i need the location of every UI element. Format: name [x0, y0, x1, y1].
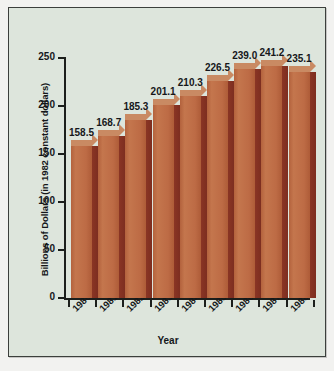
- bar-front-face: [234, 69, 255, 298]
- y-tick-50: [58, 249, 66, 251]
- y-tick-200: [58, 105, 66, 107]
- bar-1987[interactable]: [261, 60, 282, 298]
- bar-front-face: [71, 146, 92, 298]
- bar-1984[interactable]: [180, 90, 201, 298]
- bar-1982[interactable]: [125, 114, 146, 298]
- y-tick-label-200: 200: [15, 99, 55, 110]
- bar-side-face: [174, 105, 180, 298]
- bar-side-face: [282, 66, 288, 298]
- bar-side-face: [119, 136, 125, 298]
- bar-top-face: [98, 130, 119, 136]
- bar-side-face: [255, 69, 261, 298]
- bar-top-face: [180, 90, 201, 96]
- bar-front-face: [125, 120, 146, 298]
- bar-side-face: [228, 81, 234, 298]
- y-tick-label-250: 250: [15, 51, 55, 62]
- y-tick-250: [58, 57, 66, 59]
- y-tick-150: [58, 153, 66, 155]
- bar-front-face: [207, 81, 228, 298]
- y-axis-line: [64, 58, 66, 300]
- bar-side-face: [92, 146, 98, 298]
- bar-value-label-1984: 210.3: [171, 77, 210, 88]
- plot-area: Billions of Dollars (in 1982 constant do…: [9, 8, 327, 358]
- bar-front-face: [180, 96, 201, 298]
- bar-side-face: [146, 120, 152, 298]
- bar-value-label-1981: 168.7: [89, 117, 128, 128]
- x-axis-title: Year: [9, 335, 327, 346]
- bar-side-face: [310, 72, 316, 298]
- bar-top-face: [234, 63, 255, 69]
- y-axis-title: Billions of Dollars (in 1982 constant do…: [39, 55, 50, 305]
- y-tick-0: [58, 297, 66, 299]
- bar-1980[interactable]: [71, 140, 92, 298]
- bar-front-face: [98, 136, 119, 298]
- bar-front-face: [153, 105, 174, 298]
- bar-1988[interactable]: [289, 66, 310, 298]
- bar-value-label-1982: 185.3: [116, 101, 155, 112]
- bar-1985[interactable]: [207, 75, 228, 298]
- bar-top-face: [71, 140, 92, 146]
- bar-1983[interactable]: [153, 99, 174, 298]
- y-tick-label-150: 150: [15, 147, 55, 158]
- y-tick-label-100: 100: [15, 195, 55, 206]
- y-tick-label-50: 50: [15, 243, 55, 254]
- y-tick-label-0: 0: [15, 291, 55, 302]
- bar-value-label-1980: 158.5: [62, 127, 101, 138]
- bar-1981[interactable]: [98, 130, 119, 298]
- x-tick-end: [313, 300, 315, 307]
- bar-top-face: [207, 75, 228, 81]
- chart-frame: Billions of Dollars (in 1982 constant do…: [8, 7, 326, 357]
- bar-top-face: [153, 99, 174, 105]
- bar-front-face: [261, 66, 282, 298]
- y-tick-100: [58, 201, 66, 203]
- bar-side-face: [201, 96, 207, 298]
- bar-top-face: [289, 66, 310, 72]
- bar-value-label-1985: 226.5: [198, 62, 237, 73]
- chart-page: Billions of Dollars (in 1982 constant do…: [0, 0, 334, 371]
- bar-front-face: [289, 72, 310, 298]
- bar-top-face: [125, 114, 146, 120]
- bar-value-label-1988: 235.1: [280, 53, 319, 64]
- bar-1986[interactable]: [234, 63, 255, 298]
